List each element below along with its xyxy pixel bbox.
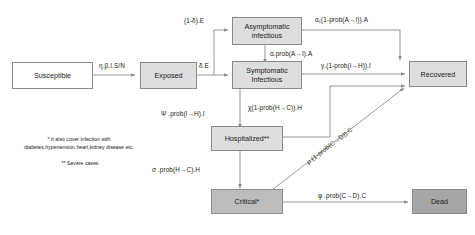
node-hospitalized[interactable]: Hospitalized** — [211, 126, 283, 151]
edge-label-asymptomatic-to-recovered: α₁(1-prob(A→I)).A — [315, 16, 368, 23]
node-hospitalized-label: Hospitalized** — [225, 134, 270, 143]
edge-label-symptomatic-to-hospitalized: Ψ .prob(I→H).I — [161, 110, 205, 117]
edge-label-exposed-to-asymptomatic: (1-δ).E — [184, 17, 204, 24]
edge-label-critical-to-dead: φ .prob(C→D).C — [318, 192, 366, 199]
footnote-single-star: * It also cover infection with diabetes,… — [18, 136, 140, 152]
node-asymptomatic-infectious[interactable]: Asymptomatic infectious — [232, 17, 302, 45]
node-exposed[interactable]: Exposed — [140, 62, 197, 89]
arrow-exposed-to-asymptomatic — [214, 30, 228, 75]
edge-label-susceptible-to-exposed: η.β.I.S/N — [99, 62, 125, 69]
node-dead-label: Dead — [431, 197, 448, 206]
edge-label-hospitalized-to-recovered: χ(1-prob(H→C)).H — [248, 104, 302, 111]
node-susceptible-label: Susceptible — [34, 71, 71, 80]
node-symptomatic-infectious[interactable]: Symptomatic Infectious — [232, 61, 302, 89]
node-susceptible[interactable]: Susceptible — [12, 62, 93, 89]
diagram-canvas: Susceptible Exposed Asymptomatic infecti… — [0, 0, 475, 235]
edge-label-symptomatic-to-recovered: γ.(1-prob(I→H)).I — [321, 62, 371, 69]
node-symptomatic-infectious-label: Symptomatic Infectious — [246, 66, 288, 84]
edge-label-exposed-to-symptomatic: δ.E — [199, 62, 209, 69]
node-recovered-label: Recovered — [421, 70, 456, 79]
edge-label-hospitalized-to-critical: σ .prob(H→C).H — [152, 166, 200, 173]
node-critical-label: Critical* — [235, 197, 260, 206]
node-dead[interactable]: Dead — [412, 189, 467, 214]
node-critical[interactable]: Critical* — [211, 189, 283, 214]
edge-label-asymptomatic-to-symptomatic: α.prob(A→I).A — [270, 50, 312, 57]
arrow-asymptomatic-to-recovered — [302, 30, 400, 60]
node-recovered[interactable]: Recovered — [409, 61, 467, 87]
node-exposed-label: Exposed — [155, 71, 183, 80]
node-asymptomatic-infectious-label: Asymptomatic infectious — [244, 22, 289, 40]
footnote-double-star: ** Severe cases — [30, 160, 130, 168]
